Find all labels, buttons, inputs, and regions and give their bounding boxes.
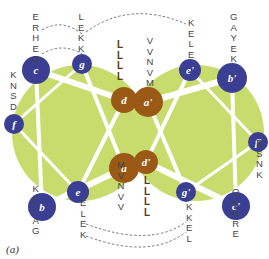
svg-text:b: b — [39, 201, 45, 213]
svg-text:a': a' — [144, 96, 153, 108]
seq-left-f: KNSD — [10, 70, 17, 112]
seq-right-g: KKEL — [186, 202, 192, 244]
seq-right-a: VVNVM — [146, 36, 154, 89]
seq-left-e: ELEK — [80, 198, 86, 240]
seq-right-e: KELE — [188, 18, 194, 60]
seq-right-d: LLLL — [144, 176, 150, 218]
svg-text:g': g' — [181, 186, 191, 198]
svg-text:e': e' — [186, 64, 194, 76]
helical-wheel-diagram: a b c d e f g a' b' c' d' e' f' g' — [0, 0, 269, 259]
seq-left-b: KEYAG — [32, 184, 39, 237]
seq-left-g: LEKK — [78, 12, 84, 54]
seq-left-c: ERHEQ — [32, 12, 39, 65]
svg-text:b': b' — [228, 72, 237, 84]
svg-text:g: g — [78, 58, 85, 70]
seq-left-d: LLLL — [117, 40, 123, 82]
svg-text:d': d' — [142, 156, 151, 168]
svg-text:d: d — [121, 94, 127, 106]
seq-right-c: QEHRE — [232, 187, 239, 240]
svg-text:c: c — [34, 64, 39, 76]
seq-right-b: GAYEK — [230, 12, 237, 65]
figure-caption: (a) — [6, 243, 19, 255]
seq-left-a: MVNVV — [117, 160, 125, 213]
seq-right-f: DSNK — [256, 138, 263, 180]
